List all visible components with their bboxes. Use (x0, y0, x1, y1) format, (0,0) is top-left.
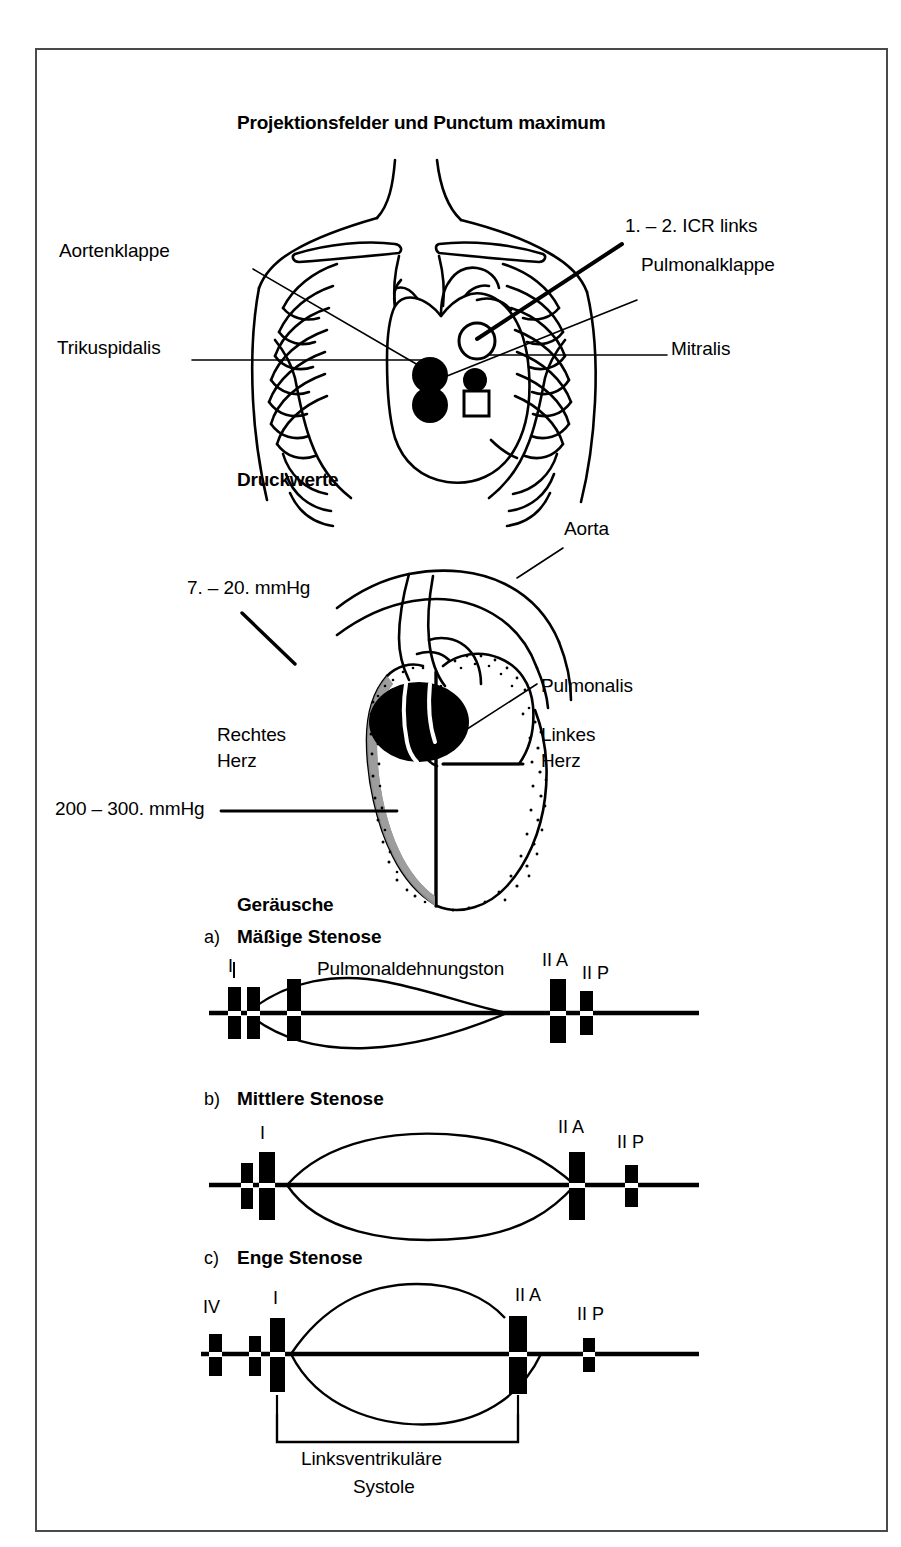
trace-c-title: Enge Stenose (237, 1247, 363, 1269)
leader-aorta (517, 548, 563, 578)
myocardium-stipple (367, 655, 547, 912)
label-trikuspidalis: Trikuspidalis (57, 337, 161, 359)
marker-trikuspidalis-dot (412, 387, 448, 423)
leader-pulmonalklappe (437, 300, 637, 380)
section-title-geraeusche: Geräusche (237, 894, 333, 916)
marker-stenosis-ellipse (369, 682, 469, 762)
systole-caption-line1: Linksventrikuläre (301, 1448, 442, 1470)
trace-b-mark-IIA-label: II A (558, 1117, 584, 1138)
trace-b-title: Mittlere Stenose (237, 1088, 384, 1110)
label-pulmonalklappe: Pulmonalklappe (641, 254, 775, 276)
trace-c-letter: c) (204, 1248, 219, 1269)
trace-a-mark-I-label: I (228, 956, 233, 977)
label-rechtes-herz-line1: Rechtes (217, 724, 286, 746)
marker-pulmonalklappe-circle (459, 323, 495, 359)
systole-bracket (277, 1414, 518, 1442)
label-pulmonalis: Pulmonalis (541, 675, 633, 697)
trace-c-mark-I-label: I (273, 1288, 278, 1309)
section-title-druckwerte: Druckwerte (237, 469, 339, 491)
leader-pressure-right (242, 613, 295, 664)
label-mitralis: Mitralis (671, 338, 730, 360)
trace-a-mark-IIA-label: II A (542, 950, 568, 971)
leader-aortenklappe (253, 269, 430, 372)
label-aortenklappe: Aortenklappe (59, 240, 170, 262)
leader-icr-links (477, 244, 622, 339)
label-icr-links: 1. – 2. ICR links (625, 215, 757, 237)
marker-aortenklappe-dot (412, 357, 448, 393)
trace-c-mark-IIA-label: II A (515, 1285, 541, 1306)
label-aorta: Aorta (564, 518, 609, 540)
trace-a-mark-IIP-label: II P (582, 963, 609, 984)
figure-page: Projektionsfelder und Punctum maximum (0, 0, 901, 1547)
trace-b-mark-IIP-label: II P (617, 1132, 644, 1153)
trace-b-letter: b) (204, 1089, 220, 1110)
section-title-projektionsfelder: Projektionsfelder und Punctum maximum (237, 112, 605, 134)
trace-a-annotation: Pulmonaldehnungston (317, 958, 504, 980)
label-rechtes-herz-line2: Herz (217, 750, 257, 772)
trace-a-letter: a) (204, 927, 220, 948)
trace-a-title: Mäßige Stenose (237, 926, 382, 948)
leader-pulmonalis (447, 684, 537, 742)
trace-b-mark-I-label: I (260, 1123, 265, 1144)
marker-mitralis-square (464, 391, 489, 416)
figure-frame: Projektionsfelder und Punctum maximum (35, 48, 888, 1532)
trace-c-mark-IV-label: IV (203, 1297, 220, 1318)
label-linkes-herz-line1: Linkes (541, 724, 595, 746)
trace-c-mark-IIP-label: II P (577, 1304, 604, 1325)
label-linkes-herz-line2: Herz (541, 750, 581, 772)
label-pressure-left: 200 – 300. mmHg (55, 798, 205, 820)
marker-punctum-dot (463, 368, 487, 392)
systole-caption-line2: Systole (353, 1476, 415, 1498)
label-pressure-right: 7. – 20. mmHg (187, 577, 310, 599)
